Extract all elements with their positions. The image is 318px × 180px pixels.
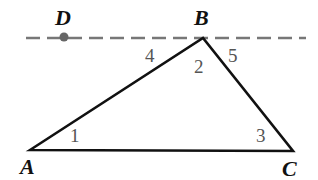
label-d: D — [54, 5, 71, 30]
triangle-diagram: D B A C 1 2 3 4 5 — [0, 0, 318, 180]
label-c: C — [282, 156, 297, 180]
label-b: B — [193, 5, 209, 30]
label-a: A — [18, 154, 35, 179]
angle-3-label: 3 — [256, 125, 266, 146]
angle-5-label: 5 — [228, 45, 238, 66]
angle-2-label: 2 — [194, 56, 204, 77]
point-d-dot — [60, 33, 69, 42]
angle-1-label: 1 — [70, 125, 80, 146]
angle-4-label: 4 — [145, 45, 155, 66]
